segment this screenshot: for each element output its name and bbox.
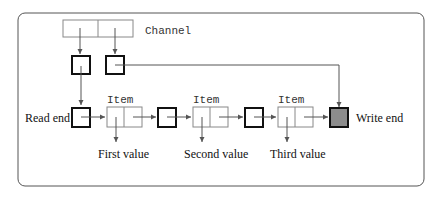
write-end-box (330, 108, 348, 127)
write-end-label: Write end (356, 111, 403, 125)
channel-diagram: Channel Read end Item First value Item S… (0, 0, 441, 202)
value-label: Third value (270, 147, 326, 161)
item-label: Item (193, 94, 220, 106)
value-label: First value (98, 147, 149, 161)
write-pointer-arrow (115, 65, 339, 107)
read-end-label: Read end (25, 111, 70, 125)
item-label: Item (107, 94, 134, 106)
channel-label: Channel (145, 25, 191, 37)
item-label: Item (278, 94, 305, 106)
channel-box (63, 20, 133, 37)
value-label: Second value (184, 147, 248, 161)
